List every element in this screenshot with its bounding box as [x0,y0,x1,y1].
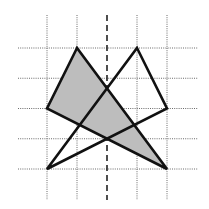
symmetry-diagram [0,0,209,209]
